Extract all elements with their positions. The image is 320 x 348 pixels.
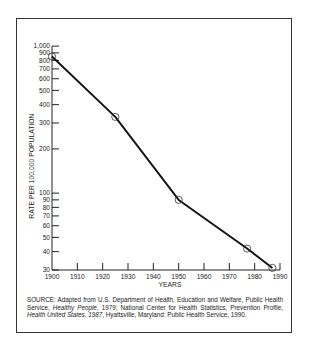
x-tick-label: 1950 <box>171 273 186 280</box>
y-tick-label: 1,000 <box>33 42 50 49</box>
chart-series <box>48 53 276 272</box>
y-tick-label: 500 <box>39 87 50 94</box>
x-tick-label: 1940 <box>146 273 161 280</box>
y-tick-label: 200 <box>39 145 50 152</box>
chart-axes <box>52 46 280 270</box>
y-tick-label: 900 <box>39 49 50 56</box>
y-tick-label: 800 <box>39 57 50 64</box>
x-axis-title: YEARS <box>158 281 182 288</box>
y-tick-label: 80 <box>43 204 51 211</box>
x-tick-label: 1920 <box>95 273 110 280</box>
source-title-health-us: Health United States, 1987 <box>27 311 102 318</box>
source-text: , 1979; National Center for Health Stati… <box>97 304 283 311</box>
x-tick-label: 1960 <box>197 273 212 280</box>
y-tick-label: 60 <box>43 222 51 229</box>
y-tick-label: 700 <box>39 65 50 72</box>
source-note: SOURCE: Adapted from U.S. Department of … <box>27 296 283 319</box>
y-tick-label: 90 <box>43 196 51 203</box>
y-tick-label: 600 <box>39 75 50 82</box>
x-tick-label: 1980 <box>247 273 262 280</box>
y-tick-label: 50 <box>43 234 51 241</box>
y-tick-label: 400 <box>39 101 50 108</box>
data-line <box>52 57 272 268</box>
y-axis-title: RATE PER 100,000 POPULATION <box>28 113 35 218</box>
x-tick-label: 1930 <box>121 273 136 280</box>
source-title-healthy-people: Healthy People <box>53 304 97 311</box>
y-tick-label: 40 <box>43 248 51 255</box>
y-tick-label: 100 <box>39 189 50 196</box>
source-text: , Hyattsville, Maryland: Public Health S… <box>102 311 246 318</box>
x-tick-label: 1990 <box>273 273 288 280</box>
x-tick-label: 1900 <box>45 273 60 280</box>
x-tick-label: 1910 <box>70 273 85 280</box>
x-tick-label: 1970 <box>222 273 237 280</box>
chart-labels: 3040506070809010020030040050060070080090… <box>28 42 288 288</box>
y-tick-label: 70 <box>43 212 51 219</box>
y-tick-label: 300 <box>39 119 50 126</box>
